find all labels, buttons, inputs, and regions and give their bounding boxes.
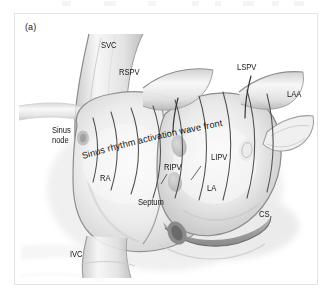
label-la: LA bbox=[207, 184, 216, 194]
label-laa: LAA bbox=[287, 90, 301, 100]
cut-off-toolbar-strip bbox=[0, 0, 332, 9]
label-lspv: LSPV bbox=[237, 63, 256, 73]
label-sinus-node-line2: node bbox=[52, 136, 69, 146]
label-svc: SVC bbox=[101, 41, 116, 51]
label-septum: Septum bbox=[138, 198, 164, 208]
figure-panel: (a) bbox=[14, 13, 318, 285]
label-ripv: RIPV bbox=[164, 163, 181, 173]
label-ivc: IVC bbox=[70, 250, 82, 260]
label-ra: RA bbox=[100, 174, 110, 184]
heart-atria-illustration bbox=[15, 14, 318, 285]
label-rspv: RSPV bbox=[119, 68, 139, 78]
label-lipv: LIPV bbox=[211, 153, 227, 163]
label-cs: CS bbox=[259, 210, 269, 220]
